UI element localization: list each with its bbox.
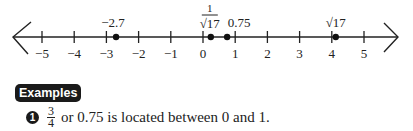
tick-label: 4 [329, 46, 336, 61]
fraction: 3 4 [47, 106, 55, 129]
data-point [224, 34, 230, 40]
number-line: −5−4−3−2−1012345 −2.71√170.75√17 [0, 0, 413, 72]
fraction-numerator: 3 [48, 106, 54, 117]
point-label: −2.7 [101, 15, 125, 30]
data-point [208, 34, 214, 40]
data-point [333, 34, 339, 40]
fraction-denominator: 4 [48, 118, 54, 129]
tick-label: −3 [99, 46, 113, 61]
example-text: or 0.75 is located between 0 and 1. [61, 109, 270, 126]
tick-label: −4 [67, 46, 81, 61]
tick-label: 3 [296, 46, 303, 61]
svg-text:1: 1 [207, 2, 213, 14]
tick-label: 2 [264, 46, 271, 61]
point-label: 1√17 [200, 2, 221, 31]
point-label: 0.75 [228, 15, 251, 30]
point-label: √17 [326, 15, 347, 30]
example-item: 1 3 4 or 0.75 is located between 0 and 1… [26, 104, 270, 130]
tick-label: −2 [132, 46, 146, 61]
svg-text:√17: √17 [200, 16, 221, 31]
examples-badge: Examples [15, 84, 81, 102]
tick-label: 1 [232, 46, 239, 61]
tick-label: 0 [200, 46, 207, 61]
tick-label: −1 [164, 46, 178, 61]
example-number-badge: 1 [26, 111, 39, 124]
left-arrow-icon [13, 22, 31, 54]
tick-label: 5 [361, 46, 368, 61]
data-point [113, 34, 119, 40]
tick-label: −5 [35, 46, 49, 61]
